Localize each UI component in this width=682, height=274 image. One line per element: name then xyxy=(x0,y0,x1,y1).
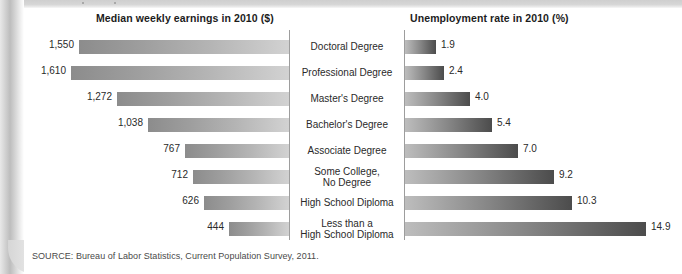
unemployment-bar xyxy=(405,196,572,210)
earnings-value-label: 1,038 xyxy=(118,117,143,128)
unemployment-bar xyxy=(405,40,436,54)
unemployment-cell: 7.0 xyxy=(405,138,682,164)
unemployment-value-label: 2.4 xyxy=(449,65,463,76)
earnings-bar xyxy=(71,66,289,80)
chart-row: 767Associate Degree7.0 xyxy=(24,138,682,164)
scan-page-gutter-shadow xyxy=(0,0,24,274)
left-column-title: Median weekly earnings in 2010 ($) xyxy=(96,12,274,24)
category-label-cell: Some College, No Degree xyxy=(290,164,404,190)
chart-row: 626High School Diploma10.3 xyxy=(24,190,682,216)
earnings-value-label: 1,610 xyxy=(41,65,66,76)
unemployment-value-label: 14.9 xyxy=(651,221,670,232)
chart-row: 1,272Master's Degree4.0 xyxy=(24,86,682,112)
unemployment-cell: 14.9 xyxy=(405,216,682,242)
chart-row: 1,610Professional Degree2.4 xyxy=(24,60,682,86)
earnings-cell: 1,272 xyxy=(24,86,289,112)
unemployment-cell: 9.2 xyxy=(405,164,682,190)
unemployment-value-label: 4.0 xyxy=(475,91,489,102)
unemployment-bar xyxy=(405,66,444,80)
unemployment-bar xyxy=(405,118,492,132)
category-label: Some College, No Degree xyxy=(314,166,380,189)
category-label-cell: Master's Degree xyxy=(290,86,404,112)
category-label: Bachelor's Degree xyxy=(306,119,388,131)
unemployment-value-label: 1.9 xyxy=(441,39,455,50)
category-label: Master's Degree xyxy=(310,93,383,105)
category-label-cell: Doctoral Degree xyxy=(290,34,404,60)
unemployment-bar xyxy=(405,170,554,184)
unemployment-value-label: 7.0 xyxy=(523,143,537,154)
source-note: SOURCE: Bureau of Labor Statistics, Curr… xyxy=(32,251,319,261)
earnings-bar xyxy=(117,92,289,106)
category-label: Doctoral Degree xyxy=(311,41,384,53)
earnings-cell: 1,550 xyxy=(24,34,289,60)
earnings-value-label: 1,550 xyxy=(49,39,74,50)
earnings-bar xyxy=(229,222,289,236)
unemployment-value-label: 9.2 xyxy=(559,169,573,180)
chart-row: 1,550Doctoral Degree1.9 xyxy=(24,34,682,60)
earnings-value-label: 1,272 xyxy=(87,91,112,102)
earnings-value-label: 767 xyxy=(163,143,180,154)
earnings-value-label: 626 xyxy=(182,195,199,206)
unemployment-cell: 10.3 xyxy=(405,190,682,216)
earnings-cell: 767 xyxy=(24,138,289,164)
scan-speck xyxy=(82,2,84,4)
chart-row: 1,038Bachelor's Degree5.4 xyxy=(24,112,682,138)
category-label-cell: Less than a High School Diploma xyxy=(290,216,404,242)
earnings-bar xyxy=(185,144,289,158)
earnings-bar xyxy=(148,118,289,132)
education-earnings-unemployment-chart: Median weekly earnings in 2010 ($) Unemp… xyxy=(24,8,682,248)
earnings-cell: 1,038 xyxy=(24,112,289,138)
unemployment-cell: 2.4 xyxy=(405,60,682,86)
earnings-value-label: 712 xyxy=(171,169,188,180)
unemployment-cell: 4.0 xyxy=(405,86,682,112)
scan-top-band xyxy=(0,0,682,8)
category-label-cell: Associate Degree xyxy=(290,138,404,164)
unemployment-cell: 5.4 xyxy=(405,112,682,138)
earnings-bar xyxy=(79,40,289,54)
earnings-bar xyxy=(193,170,289,184)
unemployment-bar xyxy=(405,92,470,106)
category-label-cell: High School Diploma xyxy=(290,190,404,216)
earnings-cell: 712 xyxy=(24,164,289,190)
scanned-page: Median weekly earnings in 2010 ($) Unemp… xyxy=(24,8,682,274)
unemployment-value-label: 10.3 xyxy=(577,195,596,206)
right-column-title: Unemployment rate in 2010 (%) xyxy=(410,12,569,24)
category-label-cell: Bachelor's Degree xyxy=(290,112,404,138)
category-label: Less than a High School Diploma xyxy=(300,218,393,241)
earnings-value-label: 444 xyxy=(207,221,224,232)
earnings-cell: 1,610 xyxy=(24,60,289,86)
earnings-cell: 626 xyxy=(24,190,289,216)
chart-row: 712Some College, No Degree9.2 xyxy=(24,164,682,190)
category-label: High School Diploma xyxy=(300,197,393,209)
earnings-bar xyxy=(204,196,289,210)
category-label: Associate Degree xyxy=(308,145,387,157)
category-label: Professional Degree xyxy=(302,67,393,79)
unemployment-bar xyxy=(405,222,646,236)
scan-speck xyxy=(114,2,116,4)
earnings-cell: 444 xyxy=(24,216,289,242)
unemployment-value-label: 5.4 xyxy=(497,117,511,128)
unemployment-bar xyxy=(405,144,518,158)
unemployment-cell: 1.9 xyxy=(405,34,682,60)
chart-row: 444Less than a High School Diploma14.9 xyxy=(24,216,682,242)
category-label-cell: Professional Degree xyxy=(290,60,404,86)
